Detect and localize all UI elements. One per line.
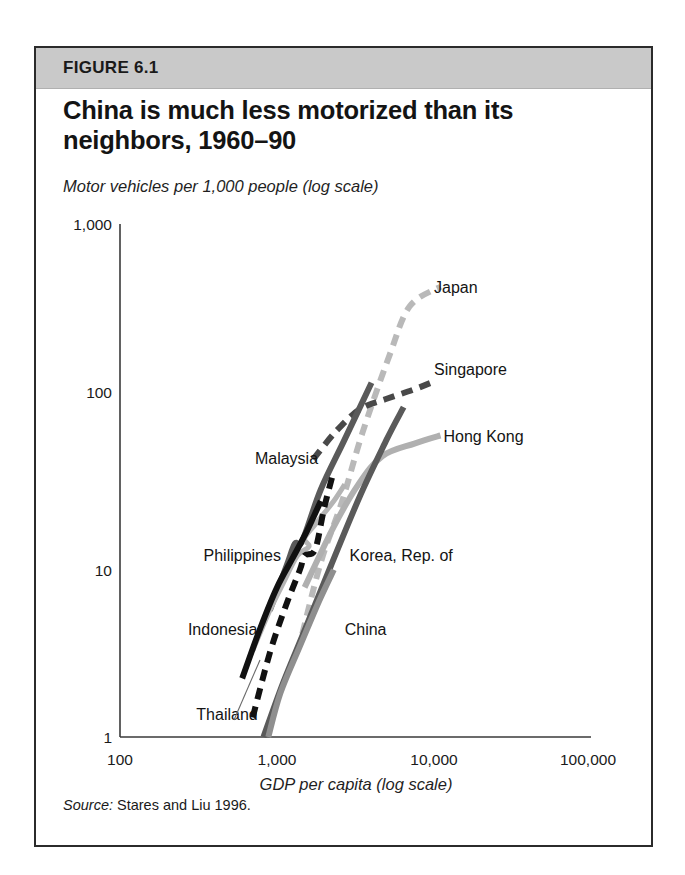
x-tick-label-1000: 1,000 xyxy=(258,751,297,768)
y-tick-label-100: 100 xyxy=(86,384,112,401)
series-label-philippines: Philippines xyxy=(204,547,281,564)
source-prefix: Source: xyxy=(63,797,113,813)
y-tick-label-10: 10 xyxy=(95,562,113,579)
series-layer xyxy=(242,287,440,737)
series-label-indonesia: Indonesia xyxy=(188,621,257,638)
series-label-hong-kong: Hong Kong xyxy=(444,428,524,445)
y-tick-label-1000: 1,000 xyxy=(73,216,112,233)
source-note: Source: Stares and Liu 1996. xyxy=(63,797,251,813)
series-label-thailand: Thailand xyxy=(196,706,257,723)
y-tick-label-1: 1 xyxy=(103,729,112,746)
series-label-japan: Japan xyxy=(434,279,478,296)
series-label-malaysia: Malaysia xyxy=(255,450,318,467)
series-label-korea-rep-of: Korea, Rep. of xyxy=(350,547,454,564)
figure-container: FIGURE 6.1 China is much less motorized … xyxy=(34,46,653,847)
series-label-singapore: Singapore xyxy=(434,361,507,378)
x-axis-caption: GDP per capita (log scale) xyxy=(260,775,453,793)
x-tick-label-100000: 100,000 xyxy=(560,751,616,768)
x-tick-label-100: 100 xyxy=(107,751,133,768)
chart-plot: 1,000 100 10 1 100 1,000 10,000 100,000 … xyxy=(36,48,655,849)
x-tick-label-10000: 10,000 xyxy=(410,751,458,768)
series-label-china: China xyxy=(345,621,387,638)
source-text: Stares and Liu 1996. xyxy=(113,797,251,813)
